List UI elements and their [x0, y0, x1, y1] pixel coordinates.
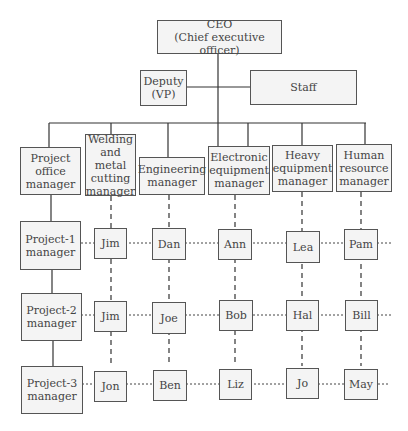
staff-cell: Liz — [219, 369, 252, 400]
staff-cell: Jo — [286, 368, 319, 399]
project-manager-box: Project-1 manager — [20, 221, 81, 270]
staff-cell: Hal — [286, 300, 319, 331]
project-manager-box: Project-3 manager — [21, 366, 83, 414]
staff-cell: Dan — [152, 228, 186, 260]
staff-cell: Ben — [153, 370, 187, 401]
functional-manager-box: Human resource manager — [336, 144, 392, 192]
staff-cell: Lea — [286, 231, 320, 263]
staff-cell: Ann — [218, 229, 252, 260]
project-office-manager-box: Project office manager — [20, 147, 81, 195]
staff-cell: Jim — [94, 301, 127, 332]
project-manager-box: Project-2 manager — [21, 293, 82, 341]
ceo-box: CEO (Chief executive officer) — [157, 20, 282, 54]
functional-manager-box: Engineering manager — [139, 157, 205, 195]
staff-cell: Bob — [219, 300, 253, 331]
functional-manager-box: Heavy equipment manager — [272, 145, 333, 192]
functional-manager-box: Electronic equipment manager — [208, 146, 270, 195]
staff-cell: Joe — [152, 302, 186, 334]
staff-cell: Jim — [94, 228, 127, 259]
deputy-box: Deputy (VP) — [140, 70, 187, 106]
staff-cell: Jon — [94, 371, 127, 402]
staff-box: Staff — [250, 70, 357, 105]
staff-cell: Bill — [345, 300, 378, 331]
functional-manager-box: Welding and metal cutting manager — [85, 134, 136, 196]
staff-cell: Pam — [344, 229, 378, 260]
staff-cell: May — [344, 369, 378, 400]
